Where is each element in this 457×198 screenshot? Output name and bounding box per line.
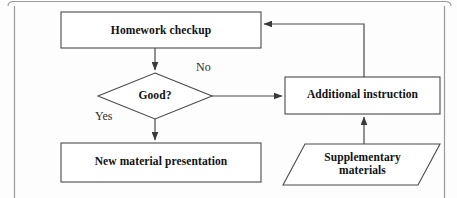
edge-additional-to-homework-feedback [264,24,364,77]
page-frame-top [8,2,451,7]
edge-label-no: No [196,61,211,74]
node-label-supplementary-materials: Supplementary materials [300,151,425,177]
edge-label-yes: Yes [95,110,112,123]
node-label-new-material-presentation: New material presentation [61,155,261,168]
node-label-good-decision: Good? [118,89,192,102]
flowchart-diagram: Homework checkup Good? New material pres… [0,0,457,198]
node-label-additional-instruction: Additional instruction [285,88,440,101]
node-label-homework-checkup: Homework checkup [61,24,261,37]
